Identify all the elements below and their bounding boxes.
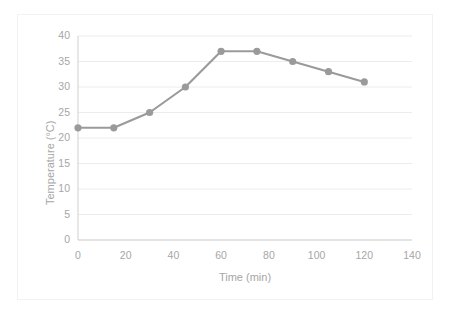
x-tick-label-60: 60 bbox=[201, 250, 241, 261]
y-tick-label-25: 25 bbox=[38, 107, 70, 118]
x-tick-label-80: 80 bbox=[249, 250, 289, 261]
x-tick-label-140: 140 bbox=[392, 250, 432, 261]
y-tick-label-5: 5 bbox=[38, 209, 70, 220]
x-tick-label-20: 20 bbox=[106, 250, 146, 261]
data-point bbox=[182, 83, 189, 90]
data-point bbox=[361, 78, 368, 85]
x-tick-label-0: 0 bbox=[58, 250, 98, 261]
data-point bbox=[74, 124, 81, 131]
data-point bbox=[253, 48, 260, 55]
gridlines bbox=[78, 36, 412, 215]
x-tick-label-100: 100 bbox=[297, 250, 337, 261]
data-point bbox=[218, 48, 225, 55]
y-axis-title: Temperature (°C) bbox=[44, 121, 56, 205]
y-tick-label-40: 40 bbox=[38, 30, 70, 41]
data-point bbox=[110, 124, 117, 131]
y-tick-label-30: 30 bbox=[38, 81, 70, 92]
x-tick-label-40: 40 bbox=[153, 250, 193, 261]
series-markers bbox=[74, 48, 368, 132]
data-point bbox=[289, 58, 296, 65]
chart-container: 40 35 30 25 20 15 10 5 0 0 20 40 60 80 1… bbox=[0, 0, 451, 316]
data-point bbox=[146, 109, 153, 116]
y-tick-label-0: 0 bbox=[38, 234, 70, 245]
series-line bbox=[78, 51, 364, 128]
y-tick-label-35: 35 bbox=[38, 56, 70, 67]
data-point bbox=[325, 68, 332, 75]
x-tick-label-120: 120 bbox=[344, 250, 384, 261]
x-axis-title: Time (min) bbox=[78, 271, 412, 283]
